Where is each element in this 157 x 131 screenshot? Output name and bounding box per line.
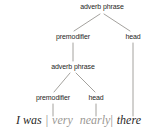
- node-root-adverb-phrase: adverb phrase: [79, 3, 124, 11]
- sentence-word-there: there: [117, 113, 141, 127]
- branch-root-to-premodifier: [74, 14, 100, 31]
- branch-adverb-phrase-to-head: [76, 73, 95, 92]
- node-adverb-phrase-level3: adverb phrase: [50, 63, 95, 71]
- node-head-level4: head: [87, 94, 104, 102]
- sentence-word-nearly: nearly: [80, 113, 111, 127]
- node-premodifier-level4: premodifier: [35, 94, 71, 102]
- branch-root-to-head: [104, 14, 130, 31]
- node-premodifier-level2: premodifier: [55, 33, 91, 41]
- sentence-word-very: very: [52, 113, 73, 127]
- node-head-level2: head: [124, 33, 141, 41]
- adverb-phrase-tree-diagram: adverb phrase premodifier head adverb ph…: [0, 0, 157, 131]
- sentence-separator-1: |: [46, 113, 48, 127]
- sentence-word-i-was: I was: [16, 113, 42, 127]
- sentence-separator-2: |: [110, 113, 112, 127]
- example-sentence: I was|verynearly|there: [0, 113, 157, 127]
- branch-adverb-phrase-to-premodifier: [54, 73, 70, 92]
